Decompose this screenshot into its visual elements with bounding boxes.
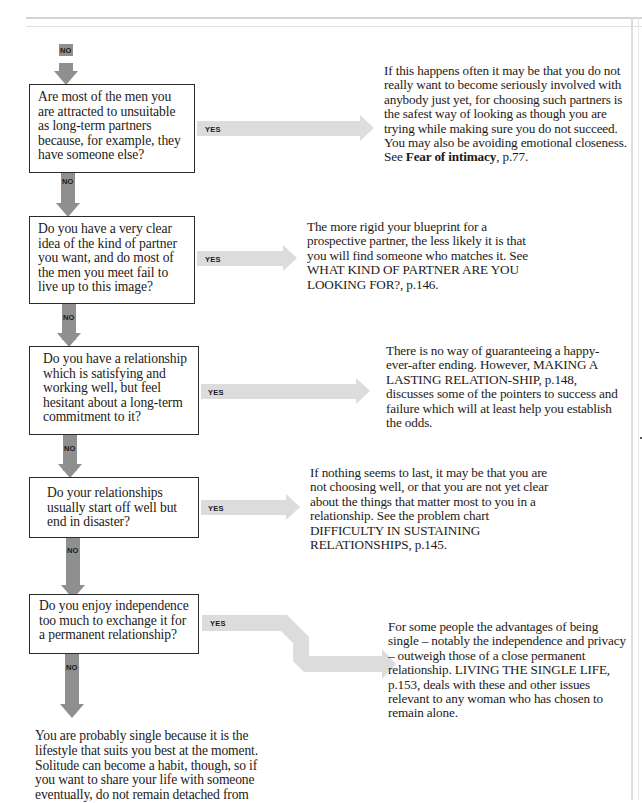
final-outcome-text: You are probably single because it is th… (35, 729, 280, 803)
yes-label-5: YES (210, 619, 226, 628)
no-arrow-5-head-icon (60, 704, 84, 718)
answer-text-5: For some people the advantages of being … (388, 620, 628, 721)
no-label-5: NO (66, 663, 78, 672)
